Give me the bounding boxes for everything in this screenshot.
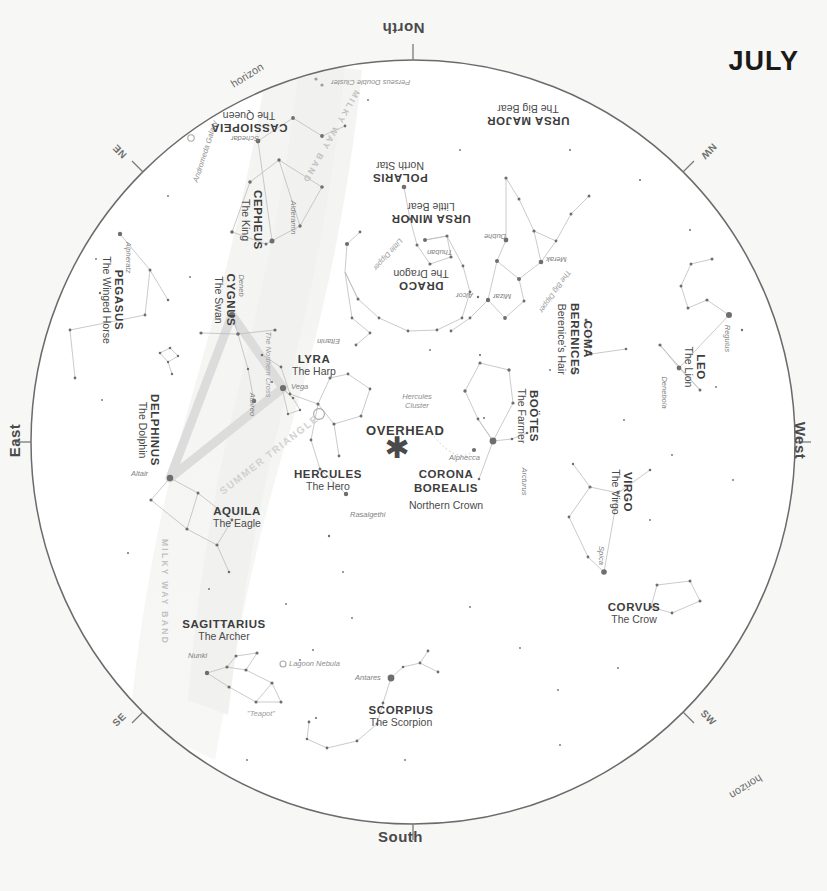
constellation-lyra: LYRA The Harp bbox=[283, 353, 345, 377]
star-label-eltanin: Eltanin bbox=[317, 337, 340, 346]
constellation-sagittarius-name: SAGITTARIUS bbox=[169, 618, 279, 630]
page-title: JULY bbox=[728, 46, 799, 77]
constellation-pegasus-common: The Winged Horse bbox=[101, 248, 113, 352]
constellation-draco: DRACO The Dragon bbox=[385, 268, 457, 292]
star-label-antares: Antares bbox=[355, 673, 381, 682]
constellation-draco-name: DRACO bbox=[385, 280, 457, 292]
constellation-virgo-common: The Virgo bbox=[610, 456, 622, 528]
constellation-draco-common: The Dragon bbox=[385, 268, 457, 280]
asterism-label-northern-cross: The Northern Cross bbox=[264, 332, 273, 398]
deep-sky-label-lagoon-nebula: Lagoon Nebula bbox=[289, 659, 340, 668]
star-label-alpheratz: Alpheratz bbox=[124, 242, 133, 274]
constellation-ursa-minor-common: Little Bear bbox=[389, 201, 473, 213]
constellation-lyra-common: The Harp bbox=[283, 365, 345, 377]
constellation-pegasus: PEGASUS The Winged Horse bbox=[101, 248, 125, 352]
constellation-corvus-name: CORVUS bbox=[594, 601, 674, 613]
constellation-polaris-name: POLARIS bbox=[362, 172, 438, 184]
constellation-ursa-major-common: The Big Bear bbox=[483, 103, 573, 115]
constellation-aquila-common: The Eagle bbox=[198, 517, 276, 529]
constellation-ursa-minor: URSA MINOR Little Bear bbox=[389, 201, 473, 225]
constellation-corona-borealis: CORONA BOREALIS Northern Crown bbox=[397, 468, 495, 511]
star-label-merak: Merak bbox=[546, 255, 567, 264]
asterism-label-teapot: "Teapot" bbox=[247, 709, 275, 718]
constellation-coma-berenices-common: Berenice's Hair bbox=[556, 291, 568, 387]
constellation-coma-berenices-name: COMA BERENICES bbox=[568, 291, 594, 387]
constellation-cygnus-name: CYGNUS bbox=[225, 263, 237, 337]
constellation-pegasus-name: PEGASUS bbox=[113, 248, 125, 352]
star-label-alderamin: Alderamin bbox=[289, 201, 298, 235]
constellation-scorpius-name: SCORPIUS bbox=[357, 704, 445, 716]
constellation-bootes-common: The Farmer bbox=[516, 376, 528, 456]
constellation-corona-borealis-common: Northern Crown bbox=[397, 499, 495, 511]
constellation-cygnus-common: The Swan bbox=[213, 263, 225, 337]
constellation-bootes: BOÖTES The Farmer bbox=[516, 376, 540, 456]
constellation-ursa-minor-name: URSA MINOR bbox=[389, 213, 473, 225]
star-label-deneb: Deneb bbox=[237, 274, 246, 296]
deep-sky-label-perseus-double-cluster: Perseus Double Cluster bbox=[331, 78, 410, 87]
star-label-schedar: Schedar bbox=[231, 134, 259, 143]
constellation-polaris-common: North Star bbox=[362, 160, 438, 172]
compass-east: East bbox=[6, 424, 23, 458]
star-label-dubhe: Dubhe bbox=[484, 232, 506, 241]
star-label-rasalgethi: Rasalgethi bbox=[350, 510, 385, 519]
constellation-ursa-major: URSA MAJOR The Big Bear bbox=[483, 103, 573, 127]
constellation-scorpius: SCORPIUS The Scorpion bbox=[357, 704, 445, 728]
constellation-leo-name: LEO bbox=[695, 334, 707, 400]
constellation-cepheus-common: The King bbox=[240, 179, 252, 261]
constellation-ursa-major-name: URSA MAJOR bbox=[483, 115, 573, 127]
constellation-hercules-common: The Hero bbox=[281, 480, 375, 492]
star-label-denebola: Denebola bbox=[660, 376, 669, 408]
constellation-delphinus: DELPHINUS The Dolphin bbox=[137, 386, 161, 474]
constellation-cassiopeia-common: The Queen bbox=[203, 110, 295, 122]
compass-north: North bbox=[382, 20, 425, 37]
star-chart: ✱ JULY North South East West NE NW SE SW… bbox=[0, 0, 827, 891]
constellation-hercules-name: HERCULES bbox=[281, 468, 375, 480]
star-label-vega: Vega bbox=[291, 382, 308, 391]
constellation-aquila: AQUILA The Eagle bbox=[198, 505, 276, 529]
constellation-sagittarius: SAGITTARIUS The Archer bbox=[169, 618, 279, 642]
constellation-delphinus-name: DELPHINUS bbox=[149, 386, 161, 474]
constellation-virgo-name: VIRGO bbox=[622, 456, 634, 528]
constellation-sagittarius-common: The Archer bbox=[169, 630, 279, 642]
compass-west: West bbox=[792, 422, 809, 460]
star-label-thuban: Thuban bbox=[427, 248, 452, 257]
constellation-virgo: VIRGO The Virgo bbox=[610, 456, 634, 528]
constellation-cepheus: CEPHEUS The King bbox=[240, 179, 264, 261]
sky-canvas: ✱ bbox=[0, 0, 827, 891]
constellation-bootes-name: BOÖTES bbox=[528, 376, 540, 456]
constellation-corona-borealis-name: CORONA BOREALIS bbox=[397, 468, 495, 496]
constellation-cygnus: CYGNUS The Swan bbox=[213, 263, 237, 337]
constellation-cepheus-name: CEPHEUS bbox=[252, 179, 264, 261]
star-label-alphecca: Alphecca bbox=[449, 453, 480, 462]
deep-sky-label-hercules-cluster: Hercules Cluster bbox=[391, 392, 443, 411]
constellation-polaris: POLARIS North Star bbox=[362, 160, 438, 184]
constellation-coma-berenices: COMA BERENICES Berenice's Hair bbox=[556, 291, 594, 387]
star-label-regulus: Regulus bbox=[723, 325, 732, 353]
constellation-leo: LEO The Lion bbox=[683, 334, 707, 400]
overhead-label: OVERHEAD bbox=[366, 423, 444, 438]
star-label-mizar: Mizar bbox=[493, 292, 511, 301]
constellation-aquila-name: AQUILA bbox=[198, 505, 276, 517]
star-label-altair: Altair bbox=[131, 469, 148, 478]
constellation-scorpius-common: The Scorpion bbox=[357, 716, 445, 728]
constellation-leo-common: The Lion bbox=[683, 334, 695, 400]
constellation-lyra-name: LYRA bbox=[283, 353, 345, 365]
star-label-alcor: Alcor bbox=[456, 291, 473, 300]
compass-south: South bbox=[378, 828, 423, 845]
constellation-delphinus-common: The Dolphin bbox=[137, 386, 149, 474]
star-label-spica: Spica bbox=[597, 546, 606, 565]
constellation-hercules: HERCULES The Hero bbox=[281, 468, 375, 492]
constellation-corvus: CORVUS The Crow bbox=[594, 601, 674, 625]
star-label-arcturus: Arcturus bbox=[520, 468, 529, 496]
constellation-corvus-common: The Crow bbox=[594, 613, 674, 625]
star-label-nunki: Nunki bbox=[188, 651, 207, 660]
star-label-albireo: Albireo bbox=[248, 393, 257, 416]
